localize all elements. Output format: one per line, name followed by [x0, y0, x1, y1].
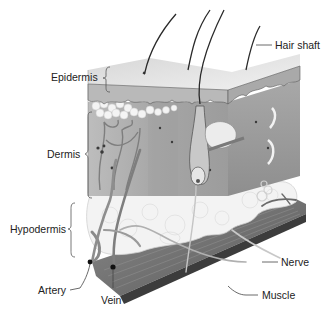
vein-opening: [110, 264, 115, 269]
label-artery: Artery: [38, 284, 66, 296]
label-vein: Vein: [101, 294, 121, 306]
label-muscle: Muscle: [262, 289, 295, 301]
label-nerve: Nerve: [281, 256, 309, 268]
artery-opening: [88, 260, 93, 265]
label-hypodermis: Hypodermis: [10, 223, 66, 235]
label-epidermis: Epidermis: [51, 71, 98, 83]
label-dermis: Dermis: [47, 148, 80, 160]
label-hair-shaft: Hair shaft: [275, 39, 320, 51]
